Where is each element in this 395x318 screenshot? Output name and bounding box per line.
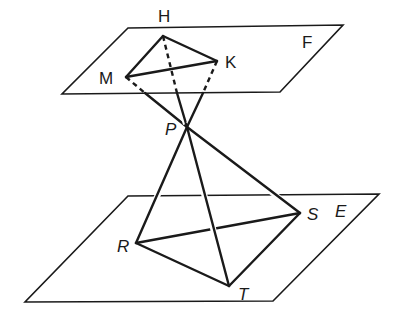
label-e: E: [335, 202, 347, 221]
geometry-diagram: H K M F P R S E T: [0, 0, 395, 318]
label-t: T: [238, 285, 250, 304]
segment-pr: [136, 127, 187, 243]
plane-e: [25, 194, 379, 302]
segment-mp-hidden: [126, 77, 145, 93]
segment-hk: [163, 36, 217, 61]
label-p: P: [165, 120, 177, 139]
label-s: S: [307, 205, 319, 224]
segment-kp-hidden: [203, 61, 217, 93]
segment-rt: [136, 243, 229, 286]
label-h: H: [158, 7, 170, 26]
segment-kp-lower: [187, 93, 203, 127]
label-m: M: [99, 69, 113, 88]
segment-hp-hidden: [163, 36, 177, 93]
label-k: K: [225, 53, 237, 72]
label-f: F: [302, 33, 312, 52]
label-r: R: [117, 237, 129, 256]
